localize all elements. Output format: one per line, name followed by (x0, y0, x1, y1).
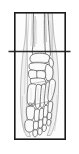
phalanx-middle-2 (33, 121, 38, 130)
phalanx-distal-5 (47, 120, 51, 126)
phalanx-distal-3 (38, 128, 43, 135)
phalanx-distal-4 (42, 125, 46, 132)
phalanx-distal-2 (33, 130, 38, 137)
phalanx-distal-1 (25, 120, 34, 132)
phalanx-proximal-1 (26, 106, 35, 120)
phalanx-middle-4 (43, 117, 48, 125)
foot-anatomy-illustration (0, 0, 79, 154)
phalanx-middle-5 (47, 112, 51, 120)
figure-panel (0, 0, 79, 154)
